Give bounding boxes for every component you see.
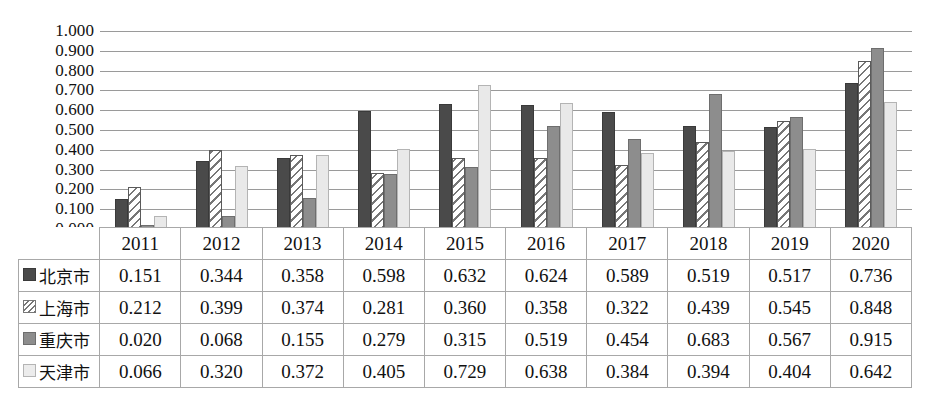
cell-北京市-2020: 0.736 (830, 260, 911, 292)
y-axis-tick-label: 1.000 (55, 22, 94, 39)
bar-group (100, 31, 181, 229)
y-axis-tick-label: 0.600 (55, 101, 94, 118)
bar-重庆市-2018[interactable] (709, 94, 722, 229)
y-axis-tick-label: 0.500 (55, 121, 94, 138)
column-header-2012: 2012 (181, 228, 262, 260)
cell-北京市-2013: 0.358 (262, 260, 343, 292)
legend-item-重庆市: 重庆市 (19, 324, 100, 356)
bar-天津市-2013[interactable] (316, 155, 329, 229)
column-header-2015: 2015 (424, 228, 505, 260)
y-axis-tick-label: 0.100 (55, 200, 94, 217)
bar-天津市-2012[interactable] (235, 166, 248, 229)
y-axis: 1.0000.9000.8000.7000.6000.5000.4000.300… (8, 20, 94, 232)
data-table-wrap: 2011201220132014201520162017201820192020… (18, 227, 912, 388)
cell-上海市-2011: 0.212 (100, 292, 181, 324)
column-header-2013: 2013 (262, 228, 343, 260)
column-header-2014: 2014 (343, 228, 424, 260)
bar-北京市-2018[interactable] (683, 126, 696, 229)
bar-北京市-2020[interactable] (845, 83, 858, 229)
bar-重庆市-2017[interactable] (628, 139, 641, 229)
bar-上海市-2019[interactable] (777, 121, 790, 229)
cell-重庆市-2013: 0.155 (262, 324, 343, 356)
bar-天津市-2018[interactable] (722, 151, 735, 229)
legend-label: 北京市 (39, 267, 89, 287)
bar-上海市-2018[interactable] (696, 142, 709, 229)
cell-天津市-2017: 0.384 (587, 356, 668, 388)
bar-重庆市-2019[interactable] (790, 117, 803, 229)
cell-上海市-2012: 0.399 (181, 292, 262, 324)
column-header-2016: 2016 (506, 228, 587, 260)
cell-上海市-2015: 0.360 (424, 292, 505, 324)
bar-天津市-2019[interactable] (803, 149, 816, 229)
y-axis-tick-label: 0.200 (55, 180, 94, 197)
cell-重庆市-2011: 0.020 (100, 324, 181, 356)
table-row: 上海市0.2120.3990.3740.2810.3600.3580.3220.… (19, 292, 912, 324)
table-row: 北京市0.1510.3440.3580.5980.6320.6240.5890.… (19, 260, 912, 292)
bar-北京市-2015[interactable] (439, 104, 452, 229)
cell-北京市-2014: 0.598 (343, 260, 424, 292)
legend-swatch-icon (23, 268, 36, 281)
bar-天津市-2020[interactable] (884, 102, 897, 229)
bar-北京市-2012[interactable] (196, 161, 209, 229)
cell-上海市-2018: 0.439 (668, 292, 749, 324)
cell-重庆市-2020: 0.915 (830, 324, 911, 356)
bar-北京市-2013[interactable] (277, 158, 290, 229)
bar-上海市-2014[interactable] (371, 173, 384, 229)
cell-天津市-2018: 0.394 (668, 356, 749, 388)
bar-上海市-2017[interactable] (615, 165, 628, 229)
data-table: 2011201220132014201520162017201820192020… (18, 227, 912, 388)
bar-上海市-2012[interactable] (209, 150, 222, 229)
bar-上海市-2016[interactable] (534, 158, 547, 229)
y-axis-tick-label: 0.400 (55, 141, 94, 158)
legend-swatch-icon (23, 332, 36, 345)
bar-重庆市-2015[interactable] (465, 167, 478, 229)
cell-天津市-2011: 0.066 (100, 356, 181, 388)
bar-重庆市-2020[interactable] (871, 48, 884, 229)
bar-北京市-2016[interactable] (521, 105, 534, 229)
bar-上海市-2013[interactable] (290, 155, 303, 229)
bar-group (587, 31, 668, 229)
bar-上海市-2011[interactable] (128, 187, 141, 229)
column-header-2018: 2018 (668, 228, 749, 260)
cell-天津市-2012: 0.320 (181, 356, 262, 388)
cell-天津市-2016: 0.638 (506, 356, 587, 388)
bar-天津市-2014[interactable] (397, 149, 410, 229)
bar-北京市-2017[interactable] (602, 112, 615, 229)
bar-北京市-2019[interactable] (764, 127, 777, 229)
cell-天津市-2020: 0.642 (830, 356, 911, 388)
bar-天津市-2016[interactable] (560, 103, 573, 229)
bar-group (831, 31, 912, 229)
cell-北京市-2019: 0.517 (749, 260, 830, 292)
legend-item-北京市: 北京市 (19, 260, 100, 292)
data-table-body: 2011201220132014201520162017201820192020… (19, 228, 912, 388)
bar-group (181, 31, 262, 229)
cell-重庆市-2015: 0.315 (424, 324, 505, 356)
legend-item-天津市: 天津市 (19, 356, 100, 388)
plot-area: 1.0000.9000.8000.7000.6000.5000.4000.300… (0, 0, 925, 232)
bar-天津市-2017[interactable] (641, 153, 654, 229)
cell-上海市-2017: 0.322 (587, 292, 668, 324)
bar-上海市-2015[interactable] (452, 158, 465, 229)
chart-root: 1.0000.9000.8000.7000.6000.5000.4000.300… (0, 0, 925, 415)
legend-item-上海市: 上海市 (19, 292, 100, 324)
bar-重庆市-2016[interactable] (547, 126, 560, 229)
bar-上海市-2020[interactable] (858, 61, 871, 229)
cell-上海市-2016: 0.358 (506, 292, 587, 324)
table-header-row: 2011201220132014201520162017201820192020 (19, 228, 912, 260)
legend-label: 重庆市 (39, 331, 89, 351)
plot-canvas (100, 31, 912, 229)
bar-天津市-2015[interactable] (478, 85, 491, 229)
bar-group (262, 31, 343, 229)
cell-北京市-2017: 0.589 (587, 260, 668, 292)
cell-北京市-2018: 0.519 (668, 260, 749, 292)
bar-北京市-2014[interactable] (358, 111, 371, 229)
cell-上海市-2013: 0.374 (262, 292, 343, 324)
bar-group (668, 31, 749, 229)
bar-重庆市-2013[interactable] (303, 198, 316, 229)
column-header-2020: 2020 (830, 228, 911, 260)
cell-重庆市-2014: 0.279 (343, 324, 424, 356)
cell-重庆市-2017: 0.454 (587, 324, 668, 356)
column-header-2011: 2011 (100, 228, 181, 260)
bar-重庆市-2014[interactable] (384, 174, 397, 229)
bar-北京市-2011[interactable] (115, 199, 128, 229)
